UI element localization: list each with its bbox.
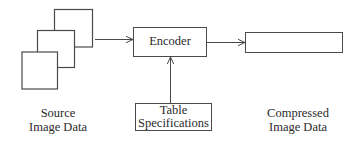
source-caption-line1: Source [20, 106, 96, 120]
compressed-caption-line1: Compressed [260, 106, 336, 120]
compressed-data-box [246, 33, 343, 53]
source-image-data-caption: Source Image Data [20, 106, 96, 134]
compressed-image-data-caption: Compressed Image Data [260, 106, 336, 134]
source-caption-line2: Image Data [20, 120, 96, 134]
source-image-front [22, 52, 58, 89]
encoder-label: Encoder [134, 35, 206, 48]
encoder-label-text: Encoder [149, 34, 191, 48]
source-image-stack [22, 10, 93, 90]
compressed-caption-line2: Image Data [260, 120, 336, 134]
table-label-line2: Specifications [135, 117, 212, 130]
table-specifications-label: Table Specifications [135, 104, 212, 130]
